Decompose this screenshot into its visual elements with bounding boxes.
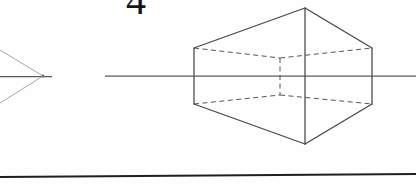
page-number-label: 4 [114,0,158,18]
perspective-construction-figure [0,0,416,189]
lower-ray-to-vanishing-point [0,76,43,103]
back-bottom-right-edge [280,95,372,104]
upper-ray-to-vanishing-point [0,50,43,76]
back-top-left-edge [194,48,280,58]
top-left-edge [194,8,305,48]
bottom-left-edge [194,104,305,144]
bottom-right-edge [305,104,372,144]
top-right-edge [305,8,372,48]
back-top-right-edge [280,48,372,58]
back-bottom-left-edge [194,95,280,104]
ground-line [0,174,416,177]
left-vanishing-point-marker [42,75,45,78]
drawing-canvas: 4 [0,0,416,189]
